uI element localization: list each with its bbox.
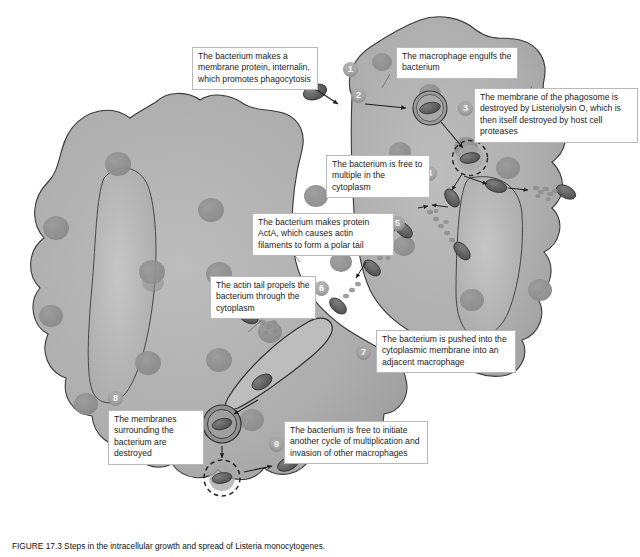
step-marker-8: 8 [108,391,123,406]
step-marker-2: 2 [351,88,366,103]
figure-canvas: The bacterium makes a membrane protein, … [0,0,640,557]
listeria-life-cycle-diagram [0,0,640,557]
callout-step-1: The bacterium makes a membrane protein, … [192,47,318,90]
step-marker-9: 9 [269,437,284,452]
step-marker-3: 3 [458,101,473,116]
callout-step-5: The bacterium makes protein ActA, which … [252,213,394,256]
step-marker-7: 7 [356,345,371,360]
step-marker-1: 1 [343,62,358,77]
callout-step-3: The membrane of the phagosome is destroy… [474,88,638,143]
double-membrane-vacuole [203,405,241,443]
callout-step-4: The bacterium is free to multiple in the… [326,155,430,198]
step-marker-6: 6 [314,281,329,296]
callout-step-7: The bacterium is pushed into the cytopla… [376,330,516,373]
callout-step-9: The bacterium is free to initiate anothe… [284,421,428,464]
callout-step-6: The actin tail propels the bacterium thr… [210,276,316,319]
callout-step-8: The membranes surrounding the bacterium … [108,410,204,465]
phagosome-intact [413,91,447,125]
figure-caption: FIGURE 17.3 Steps in the intracellular g… [12,541,630,552]
callout-step-2: The macrophage engulfs the bacterium [396,47,518,79]
